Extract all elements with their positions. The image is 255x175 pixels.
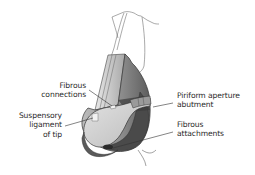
label-fibrous-attachments: Fibrous attachments	[177, 120, 224, 139]
label-piriform-aperture-abutment: Piriform aperture abutment	[177, 91, 240, 110]
nose-anatomy-diagram: Fibrous connections Suspensory ligament …	[0, 0, 255, 175]
nostril	[103, 145, 113, 150]
suspensory-ligament-marks	[92, 113, 98, 121]
label-suspensory-ligament: Suspensory ligament of tip	[0, 111, 62, 139]
label-fibrous-connections: Fibrous connections	[26, 81, 86, 100]
